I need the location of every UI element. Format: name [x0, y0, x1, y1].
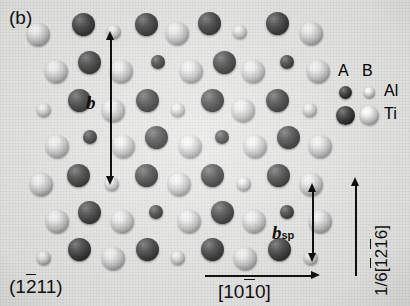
direction-arrowhead-right: [311, 271, 320, 279]
super-partial-arrowhead-down: [308, 253, 316, 262]
atom-ti-site-b: [46, 135, 69, 158]
legend-header-b: B: [362, 62, 373, 80]
atom-ti-site-a: [135, 164, 158, 187]
legend-header-a: A: [338, 62, 349, 80]
atom-ti-site-b: [45, 60, 68, 83]
super-partial-subscript: sp: [282, 229, 295, 241]
atom-ti-site-a: [67, 164, 90, 187]
atom-ti-site-b: [112, 135, 135, 158]
burgers-vector-label: b: [86, 92, 96, 114]
atom-ti-site-b: [307, 60, 330, 83]
atom-ti-site-a: [211, 201, 234, 224]
panel-label: (b): [9, 7, 32, 29]
atom-ti-site-b: [309, 135, 332, 158]
super-partial-vector-arrow-shaft: [312, 190, 314, 255]
atom-ti-site-b: [178, 210, 201, 233]
atom-ti-site-b: [232, 99, 255, 122]
direction-arrow-shaft-horizontal: [205, 275, 313, 277]
atom-al-site-b: [37, 251, 51, 265]
atom-al-site-a: [83, 130, 97, 144]
scale-vector-arrow-shaft: [355, 184, 357, 276]
burgers-vector-arrow-shaft: [110, 38, 112, 178]
atom-ti-site-a: [145, 126, 168, 149]
atom-al-site-b: [37, 103, 51, 117]
atom-ti-site-a: [213, 51, 236, 74]
atom-ti-site-a: [266, 89, 289, 112]
atom-ti-site-b: [111, 210, 134, 233]
atom-ti-site-b: [242, 60, 265, 83]
atom-al-site-b: [237, 177, 251, 191]
atom-al-site-a: [215, 130, 229, 144]
atom-ti-site-b: [46, 210, 69, 233]
scale-vector-arrowhead-up: [351, 177, 359, 186]
super-partial-arrowhead-up: [308, 183, 316, 192]
atom-ti-site-b: [180, 60, 203, 83]
atom-ti-site-b: [30, 173, 53, 196]
atom-ti-site-b: [166, 22, 189, 45]
atom-ti-site-a: [266, 12, 289, 35]
atom-ti-site-b: [110, 60, 133, 83]
atom-ti-site-a: [78, 51, 101, 74]
atom-ti-site-b: [168, 173, 191, 196]
atom-ti-site-b: [234, 247, 257, 270]
overbar-plane-index: 2: [26, 276, 37, 297]
atom-al-site-a: [280, 205, 294, 219]
plane-label: (1211): [9, 276, 63, 298]
atom-ti-site-a: [68, 238, 91, 261]
atom-al-site-a: [280, 55, 294, 69]
atom-ti-site-b: [179, 135, 202, 158]
atom-ti-site-a: [201, 164, 224, 187]
atom-ti-site-b: [102, 247, 125, 270]
legend-swatch-ti-b: [360, 106, 379, 125]
atom-al-site-b: [303, 103, 317, 117]
atom-ti-site-a: [136, 238, 159, 261]
atom-ti-site-a: [78, 201, 101, 224]
burgers-vector-arrowhead-up: [106, 31, 114, 40]
atom-al-site-a: [151, 55, 165, 69]
atom-al-site-b: [171, 103, 185, 117]
legend-label-al: Al: [384, 82, 398, 100]
burgers-vector-arrowhead-down: [106, 176, 114, 185]
atom-ti-site-a: [201, 238, 224, 261]
legend-swatch-ti-a: [336, 106, 355, 125]
legend-label-ti: Ti: [384, 105, 397, 123]
atom-ti-site-a: [277, 126, 300, 149]
atom-ti-site-a: [136, 89, 159, 112]
legend-swatch-al-b: [364, 87, 375, 98]
overbar-index-2: 1: [372, 239, 391, 248]
atom-ti-site-a: [72, 13, 95, 36]
atom-ti-site-b: [102, 99, 125, 122]
overbar-index: 1: [244, 281, 255, 302]
atom-al-site-a: [149, 205, 163, 219]
overbar-index-1: 1: [372, 258, 391, 267]
atom-ti-site-a: [135, 13, 158, 36]
atom-al-site-b: [171, 251, 185, 265]
atom-ti-site-a: [267, 164, 290, 187]
atom-ti-site-b: [300, 22, 323, 45]
atom-ti-site-a: [201, 89, 224, 112]
scale-vector-label: 1/6[1216]: [372, 225, 392, 296]
crystal-structure-figure: b bsp [1010] 1/6[1216] (b) (1211) A B Al…: [0, 0, 410, 306]
atom-al-site-b: [233, 25, 247, 39]
atom-ti-site-b: [243, 210, 266, 233]
super-partial-vector-label: bsp: [272, 222, 294, 244]
horizontal-direction-label: [1010]: [218, 281, 271, 303]
atom-ti-site-b: [244, 135, 267, 158]
legend-swatch-al-a: [339, 86, 352, 99]
atom-ti-site-a: [198, 12, 221, 35]
